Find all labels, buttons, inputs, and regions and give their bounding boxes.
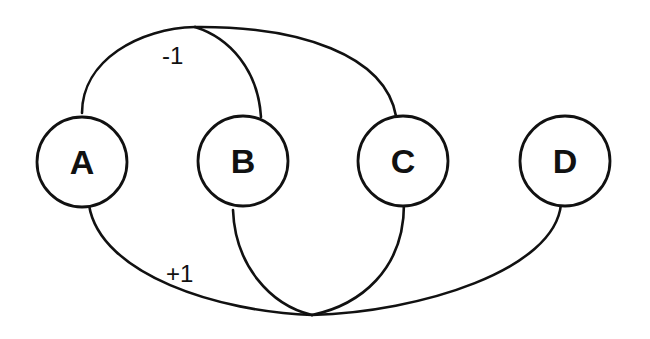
- diagram-canvas: -1 +1 A B C D: [0, 0, 650, 339]
- node-d: D: [520, 116, 610, 206]
- hyperedge-bottom: +1: [89, 204, 561, 315]
- node-a: A: [37, 117, 127, 207]
- node-c: C: [358, 116, 448, 206]
- hyperedge-top: -1: [82, 27, 396, 117]
- edge-bottom-d: [312, 204, 561, 315]
- edge-label-top: -1: [162, 42, 183, 69]
- edge-top-a: [82, 27, 195, 113]
- edge-label-bottom: +1: [166, 260, 193, 287]
- edge-bottom-b: [233, 210, 312, 315]
- edge-top-c: [195, 27, 396, 116]
- node-c-label: C: [391, 142, 416, 180]
- node-a-label: A: [70, 143, 95, 181]
- edge-bottom-c: [312, 204, 404, 315]
- edge-top-b: [195, 27, 261, 117]
- node-d-label: D: [553, 142, 578, 180]
- node-b: B: [198, 116, 288, 206]
- node-b-label: B: [231, 142, 256, 180]
